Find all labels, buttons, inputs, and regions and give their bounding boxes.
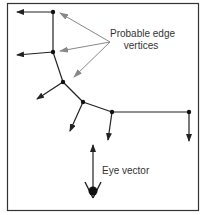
normal-arrow-v5 bbox=[108, 112, 112, 140]
diagram-canvas bbox=[0, 0, 211, 215]
vertices bbox=[51, 10, 191, 114]
vertex-dot bbox=[61, 80, 65, 84]
label-line-1: Probable edge bbox=[110, 28, 172, 40]
normal-arrow-v4 bbox=[70, 102, 83, 131]
normal-arrow-v2 bbox=[17, 52, 53, 55]
vertex-dot bbox=[110, 110, 114, 114]
vertex-dot bbox=[51, 10, 55, 14]
label-line-2: vertices bbox=[110, 40, 172, 52]
probable-edge-vertices-label: Probable edge vertices bbox=[110, 28, 172, 52]
pointer-arrows bbox=[60, 13, 110, 77]
vertex-dot bbox=[51, 50, 55, 54]
eye-vector bbox=[85, 145, 101, 198]
eye-icon bbox=[89, 187, 98, 196]
vertex-dot bbox=[81, 100, 85, 104]
edge-chain bbox=[53, 12, 189, 112]
eye-vector-label: Eye vector bbox=[102, 165, 149, 177]
normal-arrow-v3 bbox=[37, 82, 63, 99]
vertex-dot bbox=[187, 110, 191, 114]
